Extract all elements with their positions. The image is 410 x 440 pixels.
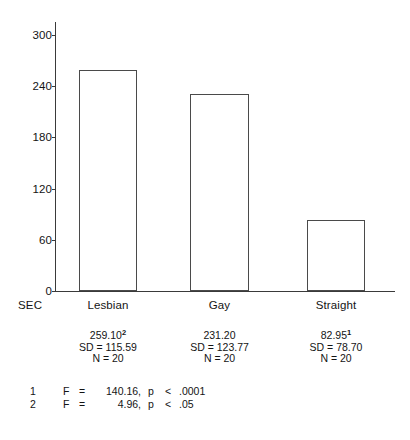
y-tick-label: 60: [16, 234, 52, 246]
stats-block-gay: 231.20SD = 123.77N = 20: [165, 330, 275, 365]
footnote-p: p: [141, 385, 165, 398]
footnote-marker: 2: [30, 398, 63, 411]
footnote-row: 1F=140.16,p<.0001: [30, 385, 205, 398]
stats-block-straight: 82.951SD = 78.70N = 20: [281, 330, 391, 365]
bar-gay: [190, 94, 249, 291]
row-key-label: SEC: [18, 299, 42, 311]
y-tick-label: 300: [16, 29, 52, 41]
y-tick-label: 240: [16, 80, 52, 92]
bar-chart-figure: 060120180240300 SEC LesbianGayStraight 2…: [0, 0, 410, 440]
footnote-equals: =: [79, 398, 93, 411]
stat-footnote-marker: 2: [122, 328, 126, 337]
bar-straight: [307, 220, 365, 291]
stat-n: N = 20: [281, 353, 391, 365]
plot-area: 060120180240300: [0, 0, 410, 300]
footnote-stat: F: [63, 398, 79, 411]
category-label-lesbian: Lesbian: [58, 299, 158, 311]
footnote-p-value: .0001: [179, 385, 205, 398]
footnote-equals: =: [79, 385, 93, 398]
footnote-stat-value: 140.16,: [93, 385, 141, 398]
stat-mean-value: 82.95: [321, 329, 347, 341]
stat-n: N = 20: [53, 353, 163, 365]
stat-n: N = 20: [165, 353, 275, 365]
y-tick-mark: [52, 86, 56, 87]
x-axis-line: [55, 291, 395, 292]
footnote-stat-value: 4.96,: [93, 398, 141, 411]
footnote-marker: 1: [30, 385, 63, 398]
footnote-row: 2F=4.96,p<.05: [30, 398, 205, 411]
stats-block-lesbian: 259.102SD = 115.59N = 20: [53, 330, 163, 365]
stat-mean: 82.951: [281, 330, 391, 342]
y-tick-mark: [52, 189, 56, 190]
category-label-gay: Gay: [170, 299, 270, 311]
stat-footnote-marker: 1: [347, 328, 351, 337]
y-tick-mark: [52, 291, 56, 292]
y-axis-line: [55, 22, 56, 291]
y-tick-mark: [52, 240, 56, 241]
stat-mean: 231.20: [165, 330, 275, 342]
footnote-p: p: [141, 398, 165, 411]
category-label-straight: Straight: [286, 299, 386, 311]
footnotes: 1F=140.16,p<.00012F=4.96,p<.05: [30, 385, 205, 410]
y-tick-mark: [52, 35, 56, 36]
stat-mean-value: 259.10: [90, 329, 122, 341]
y-tick-label: 120: [16, 183, 52, 195]
footnote-p-value: .05: [179, 398, 194, 411]
y-tick-label: 180: [16, 131, 52, 143]
footnote-less-than: <: [165, 385, 179, 398]
footnote-stat: F: [63, 385, 79, 398]
stat-mean: 259.102: [53, 330, 163, 342]
stat-mean-value: 231.20: [203, 329, 235, 341]
y-tick-mark: [52, 137, 56, 138]
footnote-less-than: <: [165, 398, 179, 411]
bar-lesbian: [79, 70, 137, 291]
y-tick-label: 0: [16, 285, 52, 297]
